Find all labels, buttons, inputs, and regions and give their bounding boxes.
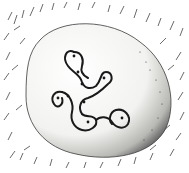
- stone: [26, 24, 171, 158]
- stone-sketch: [0, 0, 189, 173]
- illustration: Carved stone with incised looping serpen…: [0, 0, 189, 173]
